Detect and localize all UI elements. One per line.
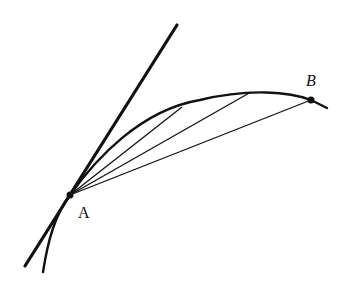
chord-a-b bbox=[70, 100, 311, 195]
tangent-line bbox=[25, 25, 177, 266]
point-a-marker bbox=[67, 192, 74, 199]
chord-a-p2 bbox=[70, 92, 251, 195]
point-a-label: A bbox=[78, 204, 90, 222]
point-b-label: B bbox=[306, 72, 316, 90]
chord-a-p1 bbox=[70, 107, 182, 195]
point-b-marker bbox=[308, 97, 315, 104]
secant-tangent-diagram bbox=[0, 0, 346, 283]
